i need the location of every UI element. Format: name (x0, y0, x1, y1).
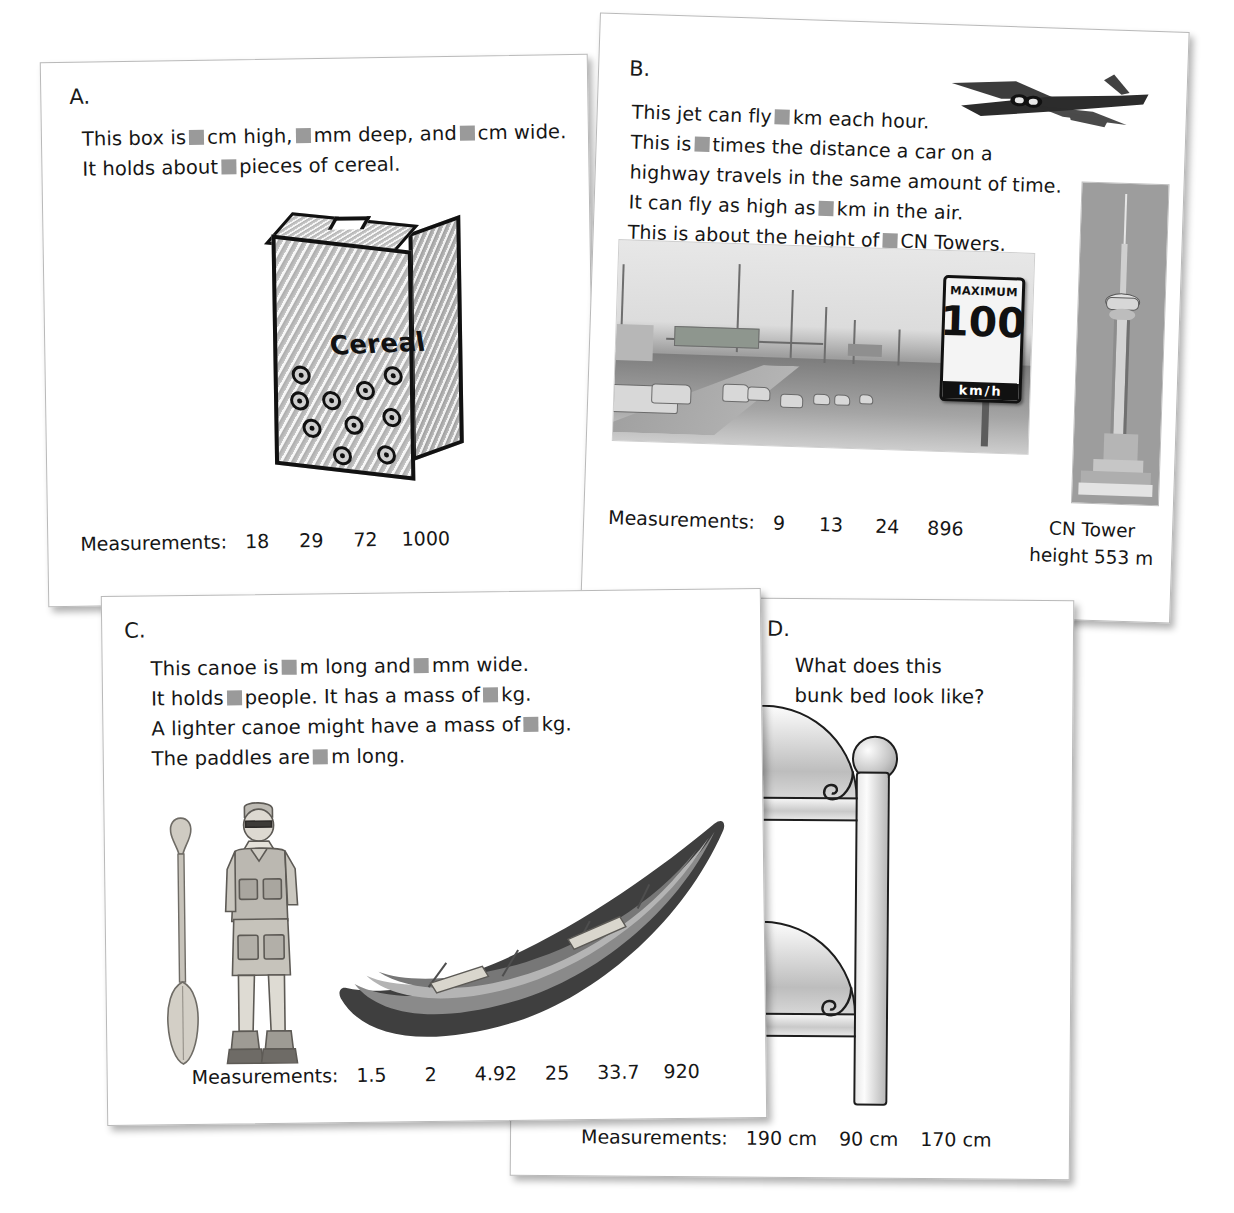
light-pole-icon (852, 320, 855, 364)
card-b-measurements: Measurements:91324896 (608, 506, 964, 540)
card-a-line-2-part-2: pieces of cereal. (239, 153, 401, 179)
scroll-detail-icon (822, 769, 856, 803)
answer-blank-canoe-length[interactable] (282, 660, 297, 675)
cn-tower-drawing (1072, 182, 1169, 505)
cn-tower-caption-line-2: height 553 m (1029, 541, 1154, 572)
card-b-line-4-part-2: km in the air. (836, 197, 963, 223)
card-c-line-2-part-3: kg. (501, 683, 531, 706)
car-icon (813, 394, 830, 406)
speed-limit-sign: MAXIMUM 100 km/h (939, 275, 1025, 404)
answer-blank-jet-speed[interactable] (775, 109, 790, 124)
card-b-measurements-label: Measurements: (608, 506, 755, 533)
card-c-letter: C. (124, 619, 146, 643)
car-icon (780, 394, 803, 409)
card-a-line-1-part-1: This box is (82, 126, 187, 151)
card-a-measurement-value: 1000 (401, 527, 450, 550)
canoe-illustration (152, 779, 736, 1081)
cereal-piece-icon (302, 418, 321, 439)
highway-photo: MAXIMUM 100 km/h (612, 239, 1035, 455)
card-d-letter: D. (767, 617, 790, 641)
answer-blank-lighter-canoe-mass[interactable] (523, 717, 538, 732)
card-c-line-4-part-1: The paddles are (152, 746, 311, 771)
cereal-piece-icon (377, 444, 396, 465)
car-icon (651, 383, 691, 404)
card-d-measurement-value: 170 cm (920, 1128, 991, 1151)
answer-blank-times-distance[interactable] (694, 137, 709, 152)
light-pole-icon (823, 307, 827, 363)
cereal-piece-icon (356, 380, 375, 401)
answer-blank-paddle-length[interactable] (313, 749, 328, 764)
jet-photo (942, 53, 1154, 138)
card-a-line-2-part-1: It holds about (82, 156, 218, 181)
car-icon (747, 386, 770, 401)
card-a-measurement-value: 72 (353, 528, 378, 550)
answer-blank-jet-altitude[interactable] (819, 201, 834, 216)
car-icon (859, 394, 874, 404)
card-c-measurements-label: Measurements: (192, 1064, 339, 1088)
highway-green-sign (674, 326, 760, 349)
card-a-measurements: Measurements:1829721000 (80, 527, 450, 555)
cereal-box-wordmark: Cereal (327, 326, 428, 360)
card-c-line-2: It holdspeople. It has a mass ofkg. (151, 680, 532, 715)
bunk-bed-corner-post (853, 771, 890, 1105)
cereal-piece-icon (322, 390, 341, 411)
card-a-line-1-part-2: cm high, (207, 124, 293, 148)
cereal-piece-icon (333, 445, 352, 466)
car-icon (722, 384, 749, 403)
card-c-line-3-part-2: kg. (541, 712, 571, 735)
cn-tower-caption-line-1: CN Tower (1030, 514, 1155, 545)
cereal-piece-icon (382, 407, 401, 428)
scroll-detail-icon (820, 985, 854, 1019)
card-b-measurement-value: 9 (773, 511, 786, 533)
speed-sign-number: 100 (939, 297, 1026, 348)
card-d-measurement-value: 90 cm (839, 1127, 898, 1149)
paddler-figure (204, 798, 317, 1069)
card-b-measurement-value: 896 (927, 517, 964, 540)
card-c-measurement-value: 4.92 (475, 1062, 518, 1085)
cereal-piece-icon (290, 390, 309, 411)
answer-blank-canoe-width[interactable] (414, 658, 429, 673)
answer-blank-canoe-people[interactable] (227, 690, 242, 705)
answer-blank-box-width[interactable] (460, 126, 475, 141)
answer-blank-cereal-pieces[interactable] (221, 159, 236, 174)
cn-tower-caption: CN Tower height 553 m (1029, 514, 1155, 572)
card-a-measurement-value: 18 (245, 530, 270, 552)
card-a-line-1-part-4: cm wide. (478, 120, 567, 144)
card-c-line-1-part-3: mm wide. (432, 653, 529, 677)
card-c-line-4: The paddles arem long. (152, 741, 406, 774)
cereal-box-front-panel: Cereal (271, 235, 415, 481)
card-a-line-1-part-3: mm deep, and (313, 122, 457, 147)
light-pole-icon (790, 290, 794, 358)
card-a-line-2: It holds aboutpieces of cereal. (82, 150, 401, 185)
card-a-measurements-label: Measurements: (80, 530, 227, 554)
cereal-box-tab (328, 216, 371, 230)
cereal-piece-icon (344, 415, 363, 436)
card-c-line-4-part-2: m long. (331, 744, 405, 768)
card-c-measurement-value: 25 (545, 1061, 569, 1083)
answer-blank-canoe-mass[interactable] (483, 687, 498, 702)
card-b[interactable]: B. This jet can flykm each hour. This is… (580, 12, 1189, 623)
paddle-drawing (160, 816, 203, 1066)
card-c-line-3-part-1: A lighter canoe might have a mass of (151, 713, 520, 741)
light-pole-icon (898, 329, 901, 365)
answer-blank-cn-tower-count[interactable] (882, 233, 897, 248)
answer-blank-box-depth[interactable] (295, 128, 310, 143)
speed-sign-unit: km/h (942, 381, 1019, 401)
card-b-measurement-value: 13 (819, 513, 844, 536)
answer-blank-box-height[interactable] (189, 130, 204, 145)
card-a[interactable]: A. This box iscm high,mm deep, andcm wid… (40, 54, 596, 608)
card-c-measurement-value: 920 (663, 1060, 700, 1082)
card-b-line-2-part-1: This is (630, 130, 691, 154)
card-d-measurements-label: Measurements: (581, 1125, 728, 1148)
card-c[interactable]: C. This canoe ism long andmm wide. It ho… (101, 588, 767, 1126)
cn-tower-photo (1071, 181, 1170, 506)
cereal-piece-icon (292, 365, 311, 386)
card-c-measurement-value: 2 (424, 1063, 436, 1085)
card-b-line-4-part-1: It can fly as high as (628, 190, 816, 218)
card-b-line-1-part-2: km each hour. (793, 106, 930, 133)
card-d-measurements: Measurements:190 cm90 cm170 cm (581, 1125, 992, 1150)
card-a-line-1: This box iscm high,mm deep, andcm wide. (82, 117, 567, 155)
canoe-drawing (330, 797, 733, 1052)
card-b-line-1-part-1: This jet can fly (631, 100, 772, 127)
card-c-line-2-part-2: people. It has a mass of (245, 683, 481, 709)
